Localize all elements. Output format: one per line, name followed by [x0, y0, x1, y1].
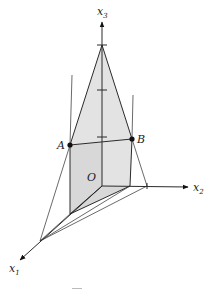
- x2-axis-label: x2: [193, 181, 204, 196]
- caption-fragment: [72, 288, 82, 289]
- origin-label: O: [87, 171, 96, 184]
- shaded-region: [70, 45, 132, 214]
- x1-axis-label: x1: [9, 262, 20, 277]
- point-A-label: A: [56, 139, 65, 152]
- point-B-label: B: [136, 133, 145, 146]
- x3-axis-label: x3: [97, 5, 108, 20]
- origin-O: O: [87, 171, 96, 184]
- coordinate-diagram: x3 x2 x1 A B O: [0, 0, 215, 290]
